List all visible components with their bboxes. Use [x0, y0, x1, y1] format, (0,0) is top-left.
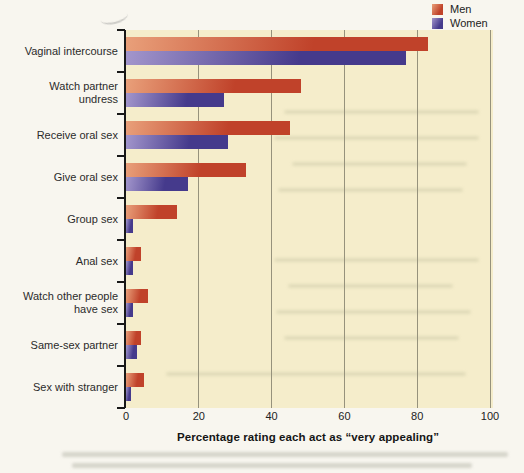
bar-men-3 [126, 121, 290, 135]
bar-men-4 [126, 163, 246, 177]
x-tick-label-20: 20 [181, 410, 217, 422]
bar-women-9 [126, 387, 131, 401]
bar-women-8 [126, 345, 137, 359]
gridline-60 [344, 30, 345, 408]
category-label-4: Give oral sex [0, 171, 118, 184]
y-axis-tick [117, 281, 125, 283]
scan-artifact-pencil-mark [99, 7, 130, 27]
bar-men-9 [126, 373, 144, 387]
category-label-7: Watch other people have sex [0, 290, 118, 316]
y-axis-tick [117, 155, 125, 157]
category-label-2: Watch partner undress [0, 80, 118, 106]
x-tick-label-100: 100 [472, 410, 508, 422]
bar-women-3 [126, 135, 228, 149]
bar-women-7 [126, 303, 133, 317]
x-axis-title: Percentage rating each act as “very appe… [110, 431, 506, 443]
category-label-3: Receive oral sex [0, 129, 118, 142]
bleed-through-text-line [72, 463, 472, 468]
bar-men-6 [126, 247, 141, 261]
bleed-through-text-line [284, 336, 459, 340]
bleed-through-text-line [278, 188, 463, 192]
y-axis-tick [117, 365, 125, 367]
bleed-through-text-line [284, 110, 479, 114]
category-label-6: Anal sex [0, 255, 118, 268]
category-label-1: Vaginal intercourse [0, 45, 118, 58]
y-axis-tick [117, 407, 125, 409]
y-axis-tick [117, 197, 125, 199]
chart-legend: Men Women [432, 2, 488, 30]
category-label-5: Group sex [0, 213, 118, 226]
legend-label-men: Men [450, 3, 471, 15]
y-axis-tick [117, 323, 125, 325]
y-axis-tick [117, 113, 125, 115]
bleed-through-text-line [288, 284, 453, 288]
legend-item-women: Women [432, 16, 488, 30]
bar-women-5 [126, 219, 133, 233]
category-label-8: Same-sex partner [0, 339, 118, 352]
x-tick-label-40: 40 [254, 410, 290, 422]
gridline-80 [417, 30, 418, 408]
bleed-through-text-line [274, 136, 479, 140]
bar-men-1 [126, 37, 428, 51]
bleed-through-text-line [274, 258, 479, 262]
bleed-through-text-line [276, 310, 471, 314]
bleed-through-text-line [62, 452, 508, 457]
legend-item-men: Men [432, 2, 488, 16]
y-axis-tick [117, 239, 125, 241]
x-tick-label-80: 80 [399, 410, 435, 422]
legend-swatch-men-icon [432, 4, 443, 15]
bar-women-4 [126, 177, 188, 191]
plot-area [126, 30, 493, 408]
x-tick-label-60: 60 [326, 410, 362, 422]
bar-women-2 [126, 93, 224, 107]
gridline-100 [490, 30, 491, 408]
category-label-9: Sex with stranger [0, 381, 118, 394]
x-tick-label-0: 0 [108, 410, 144, 422]
legend-swatch-women-icon [432, 18, 443, 29]
bleed-through-text-line [292, 162, 467, 166]
y-axis-tick [117, 71, 125, 73]
y-axis-tick [117, 29, 125, 31]
bar-men-5 [126, 205, 177, 219]
bar-men-7 [126, 289, 148, 303]
legend-label-women: Women [450, 17, 488, 29]
book-page: Men Women Percentage rating each act as … [0, 0, 524, 473]
bar-women-1 [126, 51, 406, 65]
bar-men-2 [126, 79, 301, 93]
bar-women-6 [126, 261, 133, 275]
y-axis-line [124, 30, 126, 408]
bar-men-8 [126, 331, 141, 345]
bleed-through-text-line [166, 372, 466, 376]
